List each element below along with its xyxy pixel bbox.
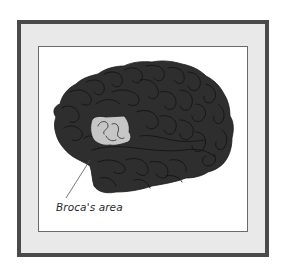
label-leader-line bbox=[66, 160, 90, 198]
broca-area-label: Broca's area bbox=[56, 201, 123, 213]
broca-area-region bbox=[91, 116, 131, 145]
brain-illustration bbox=[0, 0, 282, 268]
brain-silhouette bbox=[54, 61, 233, 193]
